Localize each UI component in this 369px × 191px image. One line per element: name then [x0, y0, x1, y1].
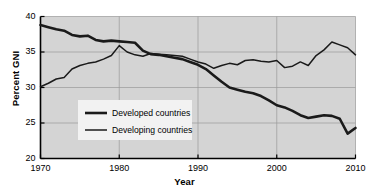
y-tick-20: 20: [14, 153, 36, 163]
x-tick-1970: 1970: [21, 163, 61, 173]
legend-label-0: Developed countries: [112, 108, 190, 118]
y-tick-40: 40: [14, 11, 36, 21]
y-tick-25: 25: [14, 117, 36, 127]
legend-label-1: Developing countries: [112, 125, 192, 135]
y-tick-30: 30: [14, 82, 36, 92]
x-tick-1990: 1990: [178, 163, 218, 173]
x-axis-label: Year: [0, 176, 369, 187]
x-tick-2000: 2000: [257, 163, 297, 173]
x-tick-1980: 1980: [99, 163, 139, 173]
y-tick-35: 35: [14, 46, 36, 56]
chart-legend: Developed countriesDeveloping countries: [78, 100, 192, 140]
chart-container: Percent GNI Year 20253035401970198019902…: [0, 0, 369, 191]
x-tick-2010: 2010: [336, 163, 369, 173]
